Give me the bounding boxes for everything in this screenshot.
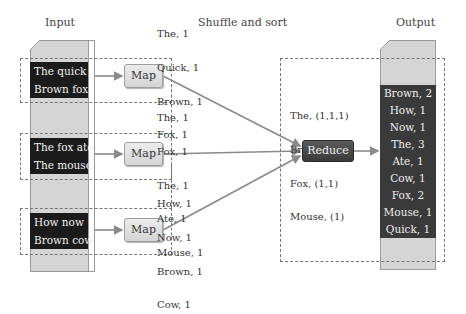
- kv-group: The, (1,1,1): [290, 110, 353, 121]
- kv-pair: The, 1: [157, 28, 203, 39]
- kv-pair: Cow, 1: [157, 299, 203, 310]
- kv-pair: The, 1: [157, 112, 203, 123]
- result-row: Cow, 1: [380, 170, 436, 187]
- result-row: Mouse, 1: [380, 204, 436, 221]
- kv-group: Fox, (1,1): [290, 178, 353, 189]
- kv-pair: Brown, 1: [157, 266, 203, 277]
- map-output-3: How, 1 Now, 1 Brown, 1 Cow, 1: [157, 176, 203, 314]
- result-row: How, 1: [380, 102, 436, 119]
- kv-pair: Now, 1: [157, 232, 203, 243]
- output-results: Brown, 2 How, 1 Now, 1 The, 3 Ate, 1 Cow…: [380, 85, 436, 238]
- result-row: Ate, 1: [380, 153, 436, 170]
- reduce-task: Reduce: [302, 140, 354, 162]
- result-row: Fox, 2: [380, 187, 436, 204]
- result-row: Quick, 1: [380, 221, 436, 238]
- kv-pair: Quick, 1: [157, 62, 203, 73]
- kv-pair: How, 1: [157, 198, 203, 209]
- result-row: Brown, 2: [380, 85, 436, 102]
- result-row: Now, 1: [380, 119, 436, 136]
- kv-pair: Fox, 1: [157, 146, 203, 157]
- result-row: The, 3: [380, 136, 436, 153]
- kv-group: Mouse, (1): [290, 211, 353, 222]
